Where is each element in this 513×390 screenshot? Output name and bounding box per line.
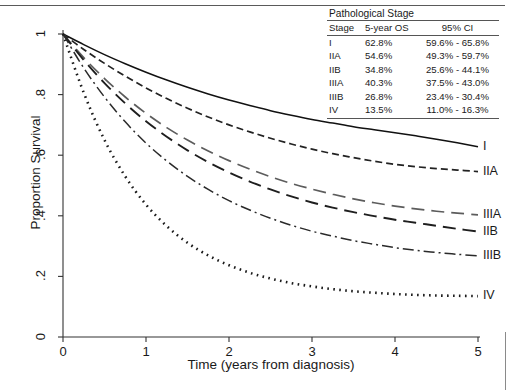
curve-label-iia: IIA: [483, 164, 498, 178]
curve-label-iib: IIB: [483, 224, 498, 238]
y-tick-label: .8: [33, 81, 48, 107]
curve-label-iv: IV: [483, 288, 494, 302]
stats-cell-stage: I: [327, 36, 364, 50]
stats-table-grid: Stage 5-year OS 95% CI I62.8%59.6% - 65.…: [327, 20, 499, 119]
column-header-ci: 95% CI: [416, 21, 499, 36]
stats-table-caption: Pathological Stage: [327, 8, 499, 20]
y-tick-label: 0: [33, 324, 48, 350]
stats-cell-stage: IIIB: [327, 90, 364, 103]
survival-chart-figure: Proportion Survival Time (years from dia…: [0, 0, 513, 390]
y-tick-label: .6: [33, 142, 48, 168]
y-tick-label: 1: [33, 21, 48, 47]
table-row: IV13.5%11.0% - 16.3%: [327, 104, 499, 119]
x-tick-label: 3: [302, 344, 322, 359]
stats-table-body: I62.8%59.6% - 65.8%IIA54.6%49.3% - 59.7%…: [327, 36, 499, 119]
stats-cell-ci: 59.6% - 65.8%: [416, 36, 499, 50]
stats-cell-stage: IIIA: [327, 77, 364, 90]
x-tick-label: 0: [53, 344, 73, 359]
table-row: IIIA40.3%37.5% - 43.0%: [327, 77, 499, 90]
stats-cell-os: 26.8%: [364, 90, 416, 103]
x-tick-label: 2: [219, 344, 239, 359]
x-tick-label: 1: [136, 344, 156, 359]
stats-cell-ci: 37.5% - 43.0%: [416, 77, 499, 90]
stats-cell-os: 40.3%: [364, 77, 416, 90]
stats-cell-ci: 25.6% - 44.1%: [416, 63, 499, 76]
curve-label-iiia: IIIA: [483, 207, 501, 221]
x-tick-label: 4: [385, 344, 405, 359]
stats-cell-ci: 49.3% - 59.7%: [416, 50, 499, 63]
stats-header-row: Stage 5-year OS 95% CI: [327, 21, 499, 36]
table-row: IIA54.6%49.3% - 59.7%: [327, 50, 499, 63]
x-axis-title: Time (years from diagnosis): [63, 357, 479, 372]
stats-table: Pathological Stage Stage 5-year OS 95% C…: [327, 8, 499, 119]
column-header-stage: Stage: [327, 21, 364, 36]
stats-cell-stage: IV: [327, 104, 364, 119]
stats-cell-os: 34.8%: [364, 63, 416, 76]
stats-cell-stage: IIB: [327, 63, 364, 76]
stats-cell-os: 54.6%: [364, 50, 416, 63]
stats-cell-stage: IIA: [327, 50, 364, 63]
y-axis-title: Proportion Survival: [28, 93, 43, 253]
stats-cell-os: 62.8%: [364, 36, 416, 50]
y-tick-label: .4: [33, 202, 48, 228]
curve-label-iiib: IIIB: [483, 248, 501, 262]
curve-label-i: I: [483, 139, 486, 153]
stats-table-head: Stage 5-year OS 95% CI: [327, 21, 499, 36]
stats-cell-ci: 23.4% - 30.4%: [416, 90, 499, 103]
table-row: IIB34.8%25.6% - 44.1%: [327, 63, 499, 76]
y-tick-label: .2: [33, 263, 48, 289]
stats-cell-ci: 11.0% - 16.3%: [416, 104, 499, 119]
column-header-os: 5-year OS: [364, 21, 416, 36]
x-tick-label: 5: [468, 344, 488, 359]
stats-cell-os: 13.5%: [364, 104, 416, 119]
table-row: IIIB26.8%23.4% - 30.4%: [327, 90, 499, 103]
table-row: I62.8%59.6% - 65.8%: [327, 36, 499, 50]
